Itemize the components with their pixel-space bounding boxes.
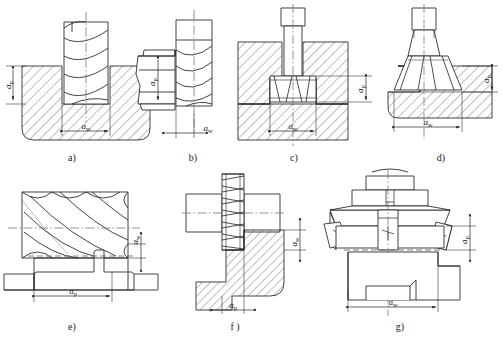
panel-g: [324, 169, 476, 316]
figure-root: ap aw ap aw ap aw ap aw aw ap aw ap ap a…: [0, 0, 503, 339]
dim-aw-b: [166, 106, 204, 138]
dim-label-aw-b: aw: [203, 123, 213, 134]
caption-d: d): [437, 152, 445, 164]
svg-text:aw: aw: [289, 237, 300, 247]
svg-text:ap: ap: [355, 85, 366, 93]
side-and-face-cutter-f: [222, 174, 244, 250]
dim-label-ap-f: ap: [229, 300, 237, 311]
slab-mill-e: [22, 192, 128, 258]
dim-label-aw-f: aw: [289, 237, 300, 247]
panel-c: [238, 4, 372, 146]
caption-e: e): [68, 321, 76, 333]
dim-label-ap-c: ap: [355, 85, 366, 93]
caption-b: b): [189, 152, 197, 164]
panel-e: [4, 192, 158, 302]
dim-label-aw-e: aw: [130, 235, 141, 245]
ap-sub-a: p: [7, 81, 14, 84]
caption-c: c): [290, 152, 298, 164]
caption-g: g): [396, 321, 404, 333]
milling-operations-figure: ap aw ap aw ap aw ap aw aw ap aw ap ap a…: [0, 0, 503, 339]
caption-a: a): [68, 152, 76, 164]
dim-label-ap-g: ap: [459, 236, 470, 244]
workpiece-g: [348, 252, 460, 300]
svg-text:ap: ap: [459, 236, 470, 244]
panel-d: [388, 4, 498, 140]
dim-label-ap-a: ap: [3, 81, 14, 89]
caption-f: f ): [230, 321, 239, 333]
svg-text:aw: aw: [130, 235, 141, 245]
dim-label-aw-d: aw: [423, 117, 433, 128]
dovetail-cutter-d: [394, 8, 462, 90]
panel-f: [182, 174, 306, 314]
dim-ap-g: [446, 218, 476, 258]
panel-a: [6, 12, 150, 140]
svg-text:ap: ap: [3, 81, 14, 89]
